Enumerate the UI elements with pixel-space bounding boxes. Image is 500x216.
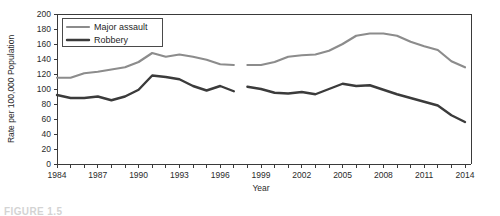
y-tick-label: 120: [37, 69, 51, 79]
y-axis-title: Rate per 100,000 Population: [6, 35, 16, 143]
series-line-robbery-seg0: [57, 76, 234, 101]
y-tick-label: 180: [37, 24, 51, 34]
y-tick-label: 60: [42, 114, 52, 124]
x-tick-label: 2005: [333, 170, 352, 180]
x-tick-label: 2002: [292, 170, 311, 180]
y-tick-label: 140: [37, 54, 51, 64]
y-tick-label: 100: [37, 84, 51, 94]
x-tick-label: 1990: [129, 170, 148, 180]
x-axis-title: Year: [252, 183, 269, 193]
series-line-major-assault-seg1: [247, 34, 465, 68]
x-tick-label: 2008: [374, 170, 393, 180]
y-tick-label: 80: [42, 99, 52, 109]
y-tick-label: 160: [37, 39, 51, 49]
figure-caption: FIGURE 1.5: [4, 207, 154, 216]
y-tick-label: 20: [42, 144, 52, 154]
y-tick-label: 0: [46, 159, 51, 169]
legend-label-major-assault: Major assault: [94, 22, 148, 32]
x-tick-label: 1996: [211, 170, 230, 180]
x-tick-label: 2011: [415, 170, 434, 180]
figure-root: 0204060801001201401601802001984198719901…: [0, 0, 500, 216]
x-tick-label: 1999: [252, 170, 271, 180]
series-line-major-assault-seg0: [57, 53, 234, 78]
legend-label-robbery: Robbery: [94, 35, 129, 45]
x-tick-label: 1984: [48, 170, 67, 180]
series-line-robbery-seg1: [247, 84, 465, 122]
x-tick-label: 1987: [88, 170, 107, 180]
y-tick-label: 40: [42, 129, 52, 139]
x-tick-label: 1993: [170, 170, 189, 180]
line-chart: 0204060801001201401601802001984198719901…: [0, 0, 500, 216]
y-tick-label: 200: [37, 9, 51, 19]
x-tick-label: 2014: [456, 170, 475, 180]
